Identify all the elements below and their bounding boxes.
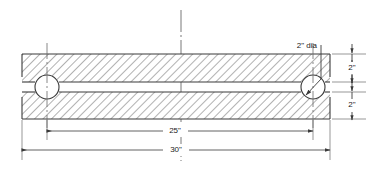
- overall-length-label: 30": [170, 145, 182, 154]
- top-plate-thickness-label: 2": [348, 63, 355, 72]
- drawing-canvas: 2" dia 2" 2": [0, 0, 384, 171]
- bottom-thickness-dimension: 2": [332, 82, 366, 120]
- engineering-drawing: 2" dia 2" 2": [0, 0, 384, 171]
- top-plate: [22, 54, 330, 82]
- hole-diameter-label: 2" dia: [297, 41, 318, 50]
- bottom-plate: [22, 92, 330, 119]
- hole-spacing-label: 25": [169, 126, 181, 135]
- hole-spacing-dimension: 25": [47, 120, 313, 140]
- top-thickness-dimension: 2": [332, 44, 366, 83]
- bottom-plate-thickness-label: 2": [348, 100, 355, 109]
